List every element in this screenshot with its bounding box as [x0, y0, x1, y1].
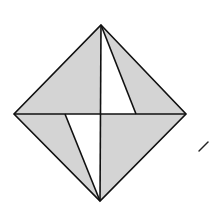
diagram-canvas	[0, 0, 209, 218]
diamond-figure	[0, 0, 209, 218]
vertical-diagonal	[100, 25, 101, 201]
stray-stroke-mark	[199, 142, 208, 151]
